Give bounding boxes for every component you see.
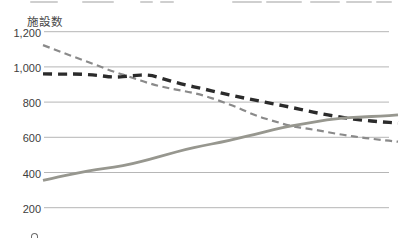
y-tick-label: 800	[2, 97, 41, 109]
y-tick-label: 1,000	[2, 62, 41, 74]
series-thin-dashed-gray-line	[43, 45, 398, 142]
chart-screenshot: 施設数 1,2001,000800600400200	[0, 0, 401, 238]
y-tick-label: 600	[2, 132, 41, 144]
series-thick-dashed-black-line	[43, 74, 398, 123]
cropped-zero-tick-remnant	[31, 233, 38, 238]
y-tick-label: 400	[2, 168, 41, 180]
y-tick-label: 200	[2, 203, 41, 215]
line-chart-canvas	[0, 0, 401, 238]
y-tick-label: 1,200	[2, 27, 41, 39]
series-solid-gray-line	[43, 115, 398, 180]
